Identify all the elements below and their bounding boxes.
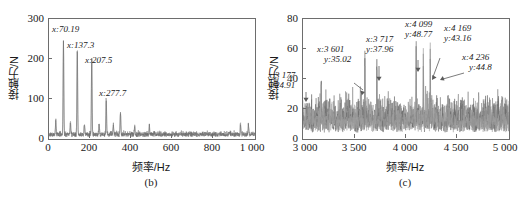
ytick-c-1: 20 [268, 103, 298, 114]
xtickmark-b-1 [89, 134, 90, 138]
annotation-c-1: x:3 601 y:35.02 [317, 44, 351, 64]
annotation-b-0-x: x:70.19 [52, 24, 79, 34]
annotation-c-5-y: y:44.8 [462, 62, 492, 72]
xtickmark-b-3 [171, 134, 172, 138]
xtick-b-0: 0 [45, 142, 51, 153]
annotation-c-2-x: x:3 717 [366, 34, 393, 44]
annotation-b-3: x:277.7 [99, 88, 126, 98]
ytick-c-3: 60 [268, 43, 298, 54]
plot-area-b [48, 18, 256, 140]
xtickmark-c-3 [456, 134, 457, 138]
annotation-b-1: x:137.3 [67, 40, 94, 50]
annotation-c-0: x:3 177 y:24.91 [268, 70, 295, 90]
annotation-b-3-x: x:277.7 [99, 88, 126, 98]
xtickmark-b-4 [212, 134, 213, 138]
xtick-c-0: 3 000 [293, 142, 318, 153]
figure-spectra: 0 100 200 300 0 200 400 600 800 1 000 频率… [0, 0, 532, 198]
annotation-b-0: x:70.19 [52, 24, 79, 34]
xtick-b-4: 800 [204, 142, 221, 153]
annotation-c-5-x: x:4 236 [462, 52, 489, 62]
panel-b: 0 100 200 300 0 200 400 600 800 1 000 频率… [0, 0, 266, 198]
ytickmark-c-3 [302, 48, 306, 49]
xaxis-title-c: 频率/Hz [386, 158, 425, 174]
xaxis-title-b: 频率/Hz [132, 158, 171, 174]
annotation-c-1-x: x:3 601 [317, 44, 344, 54]
ytickmark-b-2 [48, 58, 52, 59]
ytickmark-c-1 [302, 108, 306, 109]
annotation-b-2: x:207.5 [85, 55, 112, 65]
annotation-c-4-x: x:4 169 [444, 23, 471, 33]
caption-b: (b) [145, 176, 158, 188]
xtick-b-1: 200 [81, 142, 98, 153]
annotation-c-5: x:4 236 y:44.8 [462, 52, 492, 72]
annotation-c-4: x:4 169 y:43.16 [444, 23, 471, 43]
annotation-c-2: x:3 717 y:37.96 [366, 34, 393, 54]
annotation-c-0-x: x:3 177 [268, 70, 295, 80]
xtickmark-c-2 [405, 134, 406, 138]
annotation-c-1-y: y:35.02 [317, 54, 351, 64]
annotation-b-2-x: x:207.5 [85, 55, 112, 65]
xtick-b-3: 600 [163, 142, 180, 153]
xtickmark-c-1 [354, 134, 355, 138]
ytickmark-c-2 [302, 78, 306, 79]
yaxis-title-b: 接触力/N [6, 56, 22, 100]
xtick-b-2: 400 [122, 142, 139, 153]
xtick-c-1: 3 500 [342, 142, 367, 153]
annotation-c-4-y: y:43.16 [444, 33, 471, 43]
annotation-c-2-y: y:37.96 [366, 44, 393, 54]
annotation-c-3-y: y:48.77 [405, 29, 432, 39]
xtickmark-b-2 [130, 134, 131, 138]
ytick-c-4: 80 [268, 13, 298, 24]
annotation-c-3: x:4 099 y:48.77 [405, 19, 432, 39]
annotation-c-3-x: x:4 099 [405, 19, 432, 29]
ytickmark-b-1 [48, 98, 52, 99]
caption-c: (c) [399, 176, 411, 188]
ytick-b-0: 0 [8, 133, 44, 144]
ytick-b-3: 300 [8, 13, 44, 24]
panel-c: 0 20 40 60 80 3 000 3 500 4 000 4 500 5 … [266, 0, 532, 198]
xtick-c-2: 4 000 [393, 142, 418, 153]
annotation-b-1-x: x:137.3 [67, 40, 94, 50]
spectrum-trace-b [49, 19, 255, 139]
xtick-c-4: 5 000 [493, 142, 518, 153]
xtick-c-3: 4 500 [444, 142, 469, 153]
annotation-c-0-y: y:24.91 [268, 80, 295, 90]
xtick-b-5: 1 000 [240, 142, 265, 153]
